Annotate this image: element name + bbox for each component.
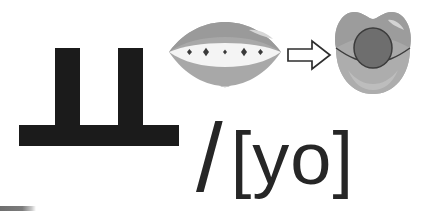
phonetic-transcription: / [yo] [196, 112, 354, 208]
hangul-stroke-right-vertical [118, 48, 143, 128]
slide-canvas: / [yo] [0, 0, 425, 214]
ipa-transcription-text: [yo] [231, 122, 354, 196]
hangul-stroke-left-vertical [55, 48, 80, 128]
mouth-open-wide-icon [163, 18, 287, 90]
mouth-rounded-icon [322, 2, 424, 102]
slash-separator: / [196, 110, 223, 206]
hangul-stroke-baseline [19, 125, 179, 146]
progress-indicator[interactable] [0, 206, 36, 211]
